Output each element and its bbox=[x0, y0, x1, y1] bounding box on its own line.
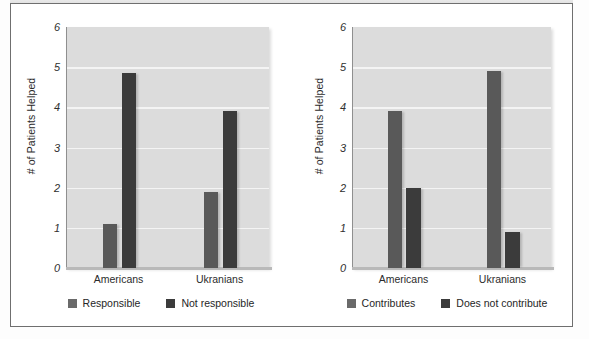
bar bbox=[406, 188, 420, 268]
chart-panel-left: # of Patients Helped 6 5 4 3 2 1 0 Ameri… bbox=[14, 14, 286, 322]
chart-panel-right: # of Patients Helped 6 5 4 3 2 1 0 Ameri… bbox=[300, 14, 572, 322]
y-axis-tick-labels: 6 5 4 3 2 1 0 bbox=[324, 27, 346, 268]
bar bbox=[204, 192, 219, 268]
legend-label: Contributes bbox=[362, 297, 416, 309]
y-axis-title: # of Patients Helped bbox=[25, 51, 37, 201]
chart-legend: Responsible Not responsible bbox=[38, 297, 284, 309]
y-tick-label: 6 bbox=[54, 22, 60, 33]
bar bbox=[487, 71, 501, 268]
legend-swatch-not-responsible-icon bbox=[166, 299, 175, 308]
y-tick-label: 5 bbox=[54, 62, 60, 73]
y-tick-label: 6 bbox=[340, 22, 346, 33]
y-tick-label: 0 bbox=[340, 263, 346, 274]
legend-item-not-responsible: Not responsible bbox=[166, 297, 254, 309]
legend-item-does-not-contribute: Does not contribute bbox=[441, 297, 547, 309]
x-tick-label: Americans bbox=[379, 273, 429, 285]
x-axis-tick-labels: Americans Ukranians bbox=[352, 273, 550, 289]
legend-swatch-contributes-icon bbox=[347, 299, 356, 308]
gridline bbox=[353, 228, 551, 229]
plot-area bbox=[352, 27, 551, 268]
legend-item-contributes: Contributes bbox=[347, 297, 416, 309]
x-axis-tick-labels: Americans Ukranians bbox=[66, 273, 268, 289]
bar bbox=[122, 73, 137, 268]
scanned-page: # of Patients Helped 6 5 4 3 2 1 0 Ameri… bbox=[0, 0, 589, 339]
gridline bbox=[67, 67, 269, 68]
gridline bbox=[353, 67, 551, 68]
legend-label: Not responsible bbox=[181, 297, 254, 309]
legend-item-responsible: Responsible bbox=[68, 297, 141, 309]
gridline bbox=[353, 188, 551, 189]
y-tick-label: 2 bbox=[340, 182, 346, 193]
bar bbox=[223, 111, 238, 268]
y-tick-label: 2 bbox=[54, 182, 60, 193]
y-axis-tick-labels: 6 5 4 3 2 1 0 bbox=[38, 27, 60, 268]
gridline bbox=[67, 148, 269, 149]
plot-area bbox=[66, 27, 269, 268]
y-tick-label: 0 bbox=[54, 263, 60, 274]
y-tick-label: 1 bbox=[54, 222, 60, 233]
legend-swatch-responsible-icon bbox=[68, 299, 77, 308]
x-tick-label: Americans bbox=[94, 273, 144, 285]
gridline bbox=[67, 107, 269, 108]
gridline bbox=[67, 228, 269, 229]
legend-label: Does not contribute bbox=[456, 297, 547, 309]
bar bbox=[388, 111, 402, 268]
chart-legend: Contributes Does not contribute bbox=[324, 297, 570, 309]
y-tick-label: 3 bbox=[54, 142, 60, 153]
y-tick-label: 3 bbox=[340, 142, 346, 153]
gridline bbox=[353, 148, 551, 149]
x-tick-label: Ukranians bbox=[196, 273, 243, 285]
x-axis-baseline bbox=[352, 267, 554, 270]
y-tick-label: 4 bbox=[340, 102, 346, 113]
legend-swatch-does-not-contribute-icon bbox=[441, 299, 450, 308]
bar bbox=[505, 232, 519, 268]
x-axis-baseline bbox=[66, 267, 272, 270]
y-tick-label: 1 bbox=[340, 222, 346, 233]
y-tick-label: 4 bbox=[54, 102, 60, 113]
figure-frame-highlight bbox=[11, 10, 572, 12]
x-tick-label: Ukranians bbox=[479, 273, 526, 285]
legend-label: Responsible bbox=[83, 297, 141, 309]
gridline bbox=[67, 188, 269, 189]
bar bbox=[103, 224, 118, 268]
y-tick-label: 5 bbox=[340, 62, 346, 73]
gridline bbox=[353, 107, 551, 108]
